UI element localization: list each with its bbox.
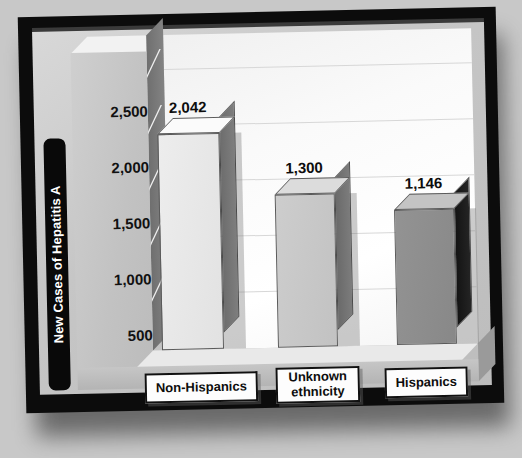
category-label-non-hispanics[interactable]: Non-Hispanics bbox=[145, 371, 259, 403]
bar-non-hispanics[interactable] bbox=[155, 28, 224, 350]
y-tick-label: 1,500 bbox=[78, 215, 150, 232]
bar-value-label: 2,042 bbox=[147, 98, 229, 117]
category-label-hispanics[interactable]: Hispanics bbox=[384, 367, 468, 399]
plot-floor-right bbox=[478, 326, 495, 381]
bar-front-face bbox=[275, 193, 338, 347]
chart-page: 2,500 2,000 1,500 1,000 500 0 2,042 bbox=[0, 0, 522, 458]
y-tick-label: 1,000 bbox=[79, 271, 151, 288]
chart-plaque: 2,500 2,000 1,500 1,000 500 0 2,042 bbox=[18, 7, 505, 413]
category-label-unknown-ethnicity[interactable]: Unknown ethnicity bbox=[275, 366, 360, 404]
category-label-text: Hispanics bbox=[395, 374, 457, 390]
bar-front-face bbox=[157, 133, 224, 350]
category-label-text: Non-Hispanics bbox=[156, 379, 247, 396]
category-label-text-line2: ethnicity bbox=[291, 384, 345, 400]
bar-value-label: 1,146 bbox=[383, 174, 463, 193]
axis-slab-front-face: 2,500 2,000 1,500 1,000 500 0 bbox=[71, 51, 154, 368]
chart-body: 2,500 2,000 1,500 1,000 500 0 2,042 bbox=[32, 22, 492, 395]
y-axis-title: New Cases of Hepatitis A bbox=[43, 138, 70, 390]
y-tick-label: 500 bbox=[81, 327, 153, 344]
y-axis-title-text: New Cases of Hepatitis A bbox=[48, 185, 66, 343]
bar-value-label: 1,300 bbox=[264, 158, 344, 177]
bar-front-face bbox=[394, 209, 457, 345]
bar-unknown-ethnicity[interactable] bbox=[271, 25, 338, 347]
y-tick-label: 2,500 bbox=[76, 103, 148, 120]
y-tick-label: 2,000 bbox=[77, 159, 149, 176]
